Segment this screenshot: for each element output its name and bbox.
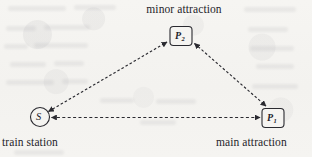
edge-group: P2 : left diagonal --> P1 : right diagon… — [49, 42, 267, 118]
edge-p2-p1[interactable] — [195, 44, 267, 107]
node-group — [31, 27, 285, 128]
edge-s-p2[interactable] — [49, 42, 168, 112]
label-train-station: train station — [2, 136, 58, 148]
node-s-glyph: S — [36, 112, 41, 123]
node-p1-glyph: P1 — [267, 113, 276, 123]
node-p2-subscript: 2 — [181, 35, 184, 42]
label-main-attraction: main attraction — [216, 136, 287, 148]
node-p1-subscript: 1 — [273, 117, 276, 124]
node-p2-glyph: P2 — [175, 31, 184, 41]
label-minor-attraction: minor attraction — [124, 3, 244, 15]
diagram-canvas: P2 : left diagonal --> P1 : right diagon… — [0, 0, 312, 157]
graph-svg: P2 : left diagonal --> P1 : right diagon… — [0, 0, 312, 157]
